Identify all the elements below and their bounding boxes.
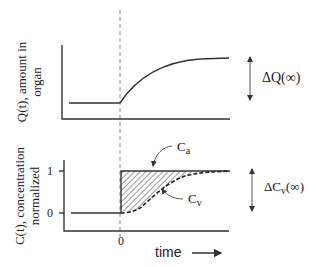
bottom-ylabel-line2: normalized xyxy=(27,166,42,225)
q-curve xyxy=(69,58,229,103)
delta-q-label: ΔQ(∞) xyxy=(262,70,301,86)
ca-label: Ca xyxy=(177,139,191,156)
cv-label-sub: v xyxy=(197,197,202,208)
cv-label-main: C xyxy=(188,191,197,206)
delta-cv-label: ΔCv(∞) xyxy=(264,179,304,196)
delta-cv-label-tail: (∞) xyxy=(286,179,304,194)
bottom-plot: 1 0 0 Ca Cv C(t), concentration normaliz… xyxy=(12,139,304,248)
top-plot-axes xyxy=(62,45,230,119)
ca-label-sub: a xyxy=(186,145,191,156)
cv-pointer-arrow-icon xyxy=(162,189,183,199)
time-axis-label: time xyxy=(155,244,182,260)
hatched-area xyxy=(121,171,229,213)
bottom-ylabel: C(t), concentration normalized xyxy=(12,146,42,245)
xtick-0-label: 0 xyxy=(118,234,124,248)
top-ylabel-line2: organ xyxy=(29,67,44,97)
ytick-0-label: 0 xyxy=(47,206,53,220)
ca-label-main: C xyxy=(177,139,186,154)
top-ylabel: Q(t), amount in organ xyxy=(14,41,44,122)
top-ylabel-line1: Q(t), amount in xyxy=(14,41,29,122)
cv-label: Cv xyxy=(188,191,202,208)
delta-cv-label-main: ΔC xyxy=(264,179,281,194)
bottom-ylabel-line1: C(t), concentration xyxy=(12,146,27,245)
ytick-1-label: 1 xyxy=(47,164,53,178)
top-plot: Q(t), amount in organ ΔQ(∞) xyxy=(14,41,301,122)
diagram-canvas: Q(t), amount in organ ΔQ(∞) 1 0 0 Ca Cv xyxy=(0,0,317,267)
ca-pointer-arrow-icon xyxy=(153,146,172,166)
